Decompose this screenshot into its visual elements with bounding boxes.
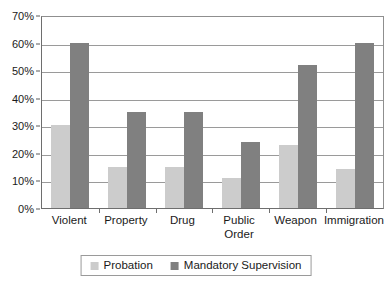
y-axis-tick-mark [36, 71, 40, 72]
x-axis-label: Immigration [324, 213, 384, 249]
bar-groups [42, 17, 383, 208]
bar[interactable] [336, 169, 355, 208]
bar[interactable] [184, 112, 203, 209]
x-axis-label: Weapon [267, 213, 324, 249]
legend-swatch-icon [91, 262, 99, 270]
y-axis-tick-label: 40% [12, 93, 34, 104]
bar-group [326, 17, 383, 208]
plot-wrapper: 70%60%50%40%30%20%10%0% ViolentPropertyD… [0, 0, 392, 250]
bar-group [212, 17, 269, 208]
x-axis-label: Drug [154, 213, 211, 249]
bar[interactable] [222, 178, 241, 208]
bar-group [99, 17, 156, 208]
bar[interactable] [165, 167, 184, 208]
y-axis-tick-mark [36, 153, 40, 154]
y-axis-tick-label: 60% [12, 38, 34, 49]
chart-legend: ProbationMandatory Supervision [81, 255, 312, 276]
y-axis-tick-mark [36, 181, 40, 182]
y-axis-tick-label: 70% [12, 11, 34, 22]
y-axis-tick-mark [36, 126, 40, 127]
x-axis-label: Public Order [211, 213, 268, 249]
y-axis-tick-label: 0% [18, 204, 34, 215]
y-axis-tick-label: 30% [12, 121, 34, 132]
bar[interactable] [108, 167, 127, 208]
y-axis-tick-label: 20% [12, 148, 34, 159]
y-axis-tick-mark [36, 16, 40, 17]
x-axis-label: Violent [41, 213, 98, 249]
legend-item[interactable]: Mandatory Supervision [171, 259, 302, 272]
bar[interactable] [127, 112, 146, 209]
bar[interactable] [241, 142, 260, 208]
bar[interactable] [51, 125, 70, 208]
bar[interactable] [70, 43, 89, 208]
bar[interactable] [355, 43, 374, 208]
bar-chart: 70%60%50%40%30%20%10%0% ViolentPropertyD… [0, 0, 392, 288]
bar[interactable] [298, 65, 317, 208]
y-axis-tick-label: 10% [12, 176, 34, 187]
legend-label: Probation [104, 259, 153, 272]
y-axis-tick-mark [36, 209, 40, 210]
bar-group [269, 17, 326, 208]
y-axis-tick-label: 50% [12, 66, 34, 77]
y-axis: 70%60%50%40%30%20%10%0% [0, 0, 40, 250]
x-axis-label: Property [98, 213, 155, 249]
bar[interactable] [279, 145, 298, 208]
y-axis-tick-mark [36, 43, 40, 44]
y-axis-tick-mark [36, 98, 40, 99]
x-axis-labels: ViolentPropertyDrugPublic OrderWeaponImm… [41, 213, 384, 249]
bar-group [42, 17, 99, 208]
bar-group [156, 17, 213, 208]
legend-swatch-icon [171, 262, 179, 270]
legend-label: Mandatory Supervision [184, 259, 302, 272]
plot-area [41, 16, 384, 209]
legend-item[interactable]: Probation [91, 259, 153, 272]
